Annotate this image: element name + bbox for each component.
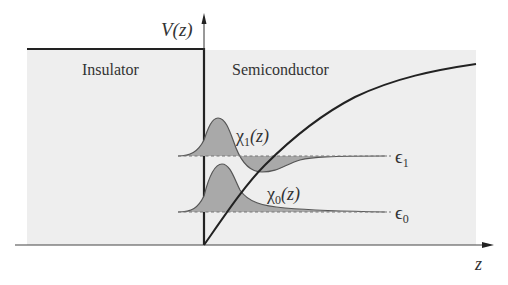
v-axis-arrow-icon: [202, 13, 207, 24]
x-axis-label: z: [474, 254, 482, 274]
z-axis-arrow-icon: [482, 242, 494, 248]
band-diagram: V(z) z Insulator Semiconductor χ1(z) χ0(…: [0, 0, 508, 285]
insulator-label: Insulator: [82, 61, 140, 78]
semiconductor-label: Semiconductor: [232, 61, 330, 78]
chi1-label: χ1(z): [235, 126, 269, 149]
y-axis-label: V(z): [161, 19, 193, 41]
chi0-label: χ0(z): [266, 184, 300, 207]
